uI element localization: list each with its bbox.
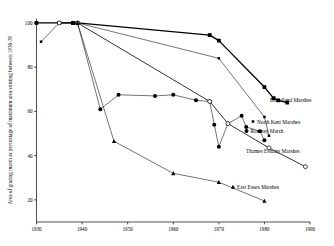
data-point-marker	[244, 125, 248, 129]
data-point-marker	[171, 93, 175, 97]
series-north-kent-marshes	[40, 22, 270, 137]
data-point-marker	[35, 21, 39, 25]
y-tick-label: 20	[27, 197, 33, 203]
series-labels-group: Broadland MarshesNorth Kent MarshesRomne…	[231, 97, 311, 191]
series-label-thames-estuary-marshes: Thames Estuary Marshes	[246, 148, 300, 154]
series-east-essex-marshes	[71, 21, 267, 203]
y-tick-label: 80	[27, 64, 33, 70]
series-line	[41, 23, 269, 136]
data-point-marker	[263, 85, 267, 89]
x-tick-label: 1990	[305, 226, 316, 232]
x-tick-label: 1950	[123, 226, 134, 232]
x-tick-label: 1930	[31, 226, 42, 232]
data-point-marker	[217, 39, 221, 43]
series-label-romney-marsh: Romney Marsh	[251, 128, 284, 134]
data-series-group	[35, 21, 308, 203]
y-tick-label: 60	[27, 108, 33, 114]
data-point-marker	[117, 93, 121, 97]
data-point-marker	[262, 138, 266, 142]
data-point-marker	[231, 185, 235, 189]
series-thames-estuary-marshes	[57, 21, 307, 169]
data-point-marker	[208, 99, 212, 103]
x-tick-label: 1980	[259, 226, 270, 232]
data-point-marker	[57, 21, 61, 25]
y-axis-title-text: Area of grazing marsh as percentage of m…	[7, 36, 13, 205]
series-romney-marsh	[71, 21, 266, 149]
y-axis-title: Area of grazing marsh as percentage of m…	[7, 36, 13, 205]
data-point-marker	[112, 139, 116, 143]
series-line	[37, 23, 288, 103]
axes: 204060801001930194019501960197019801990	[25, 19, 316, 233]
series-broadland-marshes	[35, 21, 290, 104]
data-point-marker	[171, 171, 175, 175]
x-tick-label: 1960	[168, 226, 179, 232]
chart-plot-area: 204060801001930194019501960197019801990 …	[0, 0, 334, 246]
y-tick-label: 100	[25, 20, 33, 26]
x-tick-label: 1940	[77, 226, 88, 232]
data-point-marker	[40, 40, 43, 43]
series-line	[73, 23, 264, 201]
data-point-marker	[245, 129, 249, 133]
data-point-marker	[252, 120, 255, 123]
series-label-north-kent-marshes: North Kent Marshes	[257, 119, 300, 125]
data-point-marker	[226, 122, 230, 126]
data-point-marker	[262, 199, 266, 203]
series-label-east-essex-marshes: East Essex Marshes	[237, 184, 279, 190]
data-point-marker	[217, 145, 221, 149]
data-point-marker	[194, 98, 198, 102]
series-line	[59, 23, 305, 167]
y-tick-label: 40	[27, 153, 33, 159]
data-point-marker	[303, 165, 307, 169]
data-point-marker	[240, 114, 244, 118]
data-point-marker	[268, 134, 271, 137]
data-point-marker	[153, 94, 157, 98]
data-point-marker	[218, 57, 221, 60]
series-label-broadland-marshes: Broadland Marshes	[270, 97, 311, 103]
x-tick-label: 1970	[214, 226, 225, 232]
data-point-marker	[98, 107, 102, 111]
data-point-marker	[208, 33, 212, 37]
data-point-marker	[212, 123, 216, 127]
chart-figure: 204060801001930194019501960197019801990 …	[0, 0, 334, 246]
